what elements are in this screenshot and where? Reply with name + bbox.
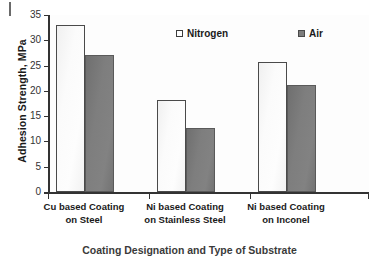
x-axis-tick-mark-edge-0: [48, 194, 49, 199]
y-axis-tick-label-35: 35: [30, 10, 41, 20]
y-axis-tick-mark-0: [44, 192, 49, 193]
y-axis-tick-mark-10: [44, 141, 49, 142]
legend-item-nitrogen[interactable]: Nitrogen: [176, 28, 228, 39]
y-axis-tick-mark-30: [44, 40, 49, 41]
legend-swatch-nitrogen-icon: [176, 30, 183, 37]
x-axis-tick-mark-2: [250, 194, 251, 199]
legend-label-air: Air: [309, 28, 323, 39]
x-axis-tick-mark-1: [149, 194, 150, 199]
y-axis-tick-label-30: 30: [30, 35, 41, 45]
y-axis-tick-mark-15: [44, 116, 49, 117]
y-axis-tick-label-10: 10: [30, 136, 41, 146]
x-axis-tick-mark-edge-1: [368, 194, 369, 199]
bar-nitrogen-0[interactable]: [56, 25, 85, 192]
y-axis-tick-mark-25: [44, 66, 49, 67]
bar-air-2[interactable]: [287, 85, 316, 192]
x-axis-line: [44, 192, 369, 194]
bar-nitrogen-1[interactable]: [157, 100, 186, 192]
y-axis-title: Adhesion Strength, MPa: [16, 11, 28, 191]
bar-nitrogen-2[interactable]: [258, 62, 287, 192]
y-axis-tick-label-25: 25: [30, 61, 41, 71]
x-category-label-2: Ni based Coating on Inconel: [226, 200, 346, 226]
chart-legend: Nitrogen Air: [176, 28, 351, 42]
x-category-label-2-line-0: Ni based Coating: [226, 200, 346, 213]
y-axis-tick-label-5: 5: [35, 162, 41, 172]
legend-label-nitrogen: Nitrogen: [187, 28, 228, 39]
x-category-label-2-line-1: on Inconel: [226, 213, 346, 226]
legend-item-air[interactable]: Air: [298, 28, 323, 39]
bar-air-0[interactable]: [85, 55, 114, 192]
scan-artifact-mark: [9, 2, 11, 16]
y-axis-tick-label-15: 15: [30, 111, 41, 121]
y-axis-tick-mark-35: [44, 15, 49, 16]
y-axis-tick-label-20: 20: [30, 86, 41, 96]
y-axis-tick-mark-5: [44, 167, 49, 168]
bar-air-1[interactable]: [186, 128, 215, 192]
y-axis-tick-mark-20: [44, 91, 49, 92]
y-axis-tick-label-0: 0: [35, 187, 41, 197]
legend-swatch-air-icon: [298, 30, 305, 37]
x-axis-title: Coating Designation and Type of Substrat…: [0, 244, 379, 256]
